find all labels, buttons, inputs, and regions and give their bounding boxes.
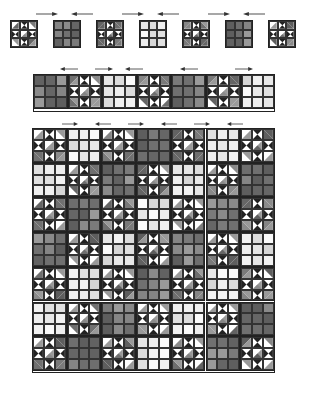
patch [55, 255, 66, 266]
patch [33, 268, 44, 279]
patch [97, 38, 106, 47]
patch [194, 313, 205, 324]
dark-nine-patch-block [33, 74, 68, 109]
patch [207, 164, 218, 175]
patch [149, 38, 158, 47]
patch [149, 21, 158, 30]
patch [148, 324, 159, 335]
patch [102, 303, 113, 314]
patch [124, 348, 135, 359]
patch [159, 233, 170, 244]
patch [229, 75, 240, 86]
star-block [268, 20, 296, 48]
patch [172, 324, 183, 335]
patch [137, 233, 148, 244]
patch [55, 313, 66, 324]
patch [207, 244, 218, 255]
patch [102, 324, 113, 335]
patch [192, 21, 201, 30]
patch [194, 140, 205, 151]
patch [149, 75, 160, 86]
patch [252, 290, 263, 301]
patch [157, 21, 166, 30]
patch [89, 175, 100, 186]
patch [183, 75, 194, 86]
arrow-left-icon [161, 121, 177, 127]
patch [286, 30, 295, 39]
dark-nine-patch-block [101, 163, 136, 198]
patch [106, 38, 115, 47]
light-nine-patch-block [171, 302, 206, 337]
patch [137, 175, 148, 186]
patch [79, 140, 90, 151]
patch [157, 38, 166, 47]
patch [137, 359, 148, 370]
patch [207, 303, 218, 314]
patch [252, 129, 263, 140]
patch [63, 21, 72, 30]
star-block [206, 163, 241, 198]
star-block [32, 197, 67, 232]
patch [228, 209, 239, 220]
patch [125, 75, 136, 86]
arrow-right-icon [95, 66, 113, 72]
patch [79, 303, 90, 314]
star-block [101, 267, 136, 302]
patch [137, 348, 148, 359]
patch [148, 255, 159, 266]
star-block [240, 197, 275, 232]
patch [252, 75, 263, 86]
patch [263, 244, 274, 255]
patch [263, 337, 274, 348]
patch [90, 75, 101, 86]
patch [148, 164, 159, 175]
dark-nine-patch-block [136, 128, 171, 163]
patch [183, 140, 194, 151]
arrow-left-icon [95, 121, 111, 127]
patch [28, 21, 37, 30]
patch [228, 175, 239, 186]
patch [114, 75, 125, 86]
patch [159, 129, 170, 140]
patch [79, 244, 90, 255]
patch [217, 359, 228, 370]
patch [137, 268, 148, 279]
patch [263, 140, 274, 151]
patch [149, 97, 160, 108]
patch [241, 324, 252, 335]
patch [124, 244, 135, 255]
patch [217, 313, 228, 324]
patch [90, 97, 101, 108]
patch [263, 290, 274, 301]
patch [113, 303, 124, 314]
patch [183, 290, 194, 301]
patch [68, 303, 79, 314]
patch [159, 244, 170, 255]
patch [252, 185, 263, 196]
patch [228, 220, 239, 231]
patch [89, 244, 100, 255]
patch [137, 324, 148, 335]
patch [192, 38, 201, 47]
arrow-left-icon [227, 121, 243, 127]
patch [241, 279, 252, 290]
patch [55, 290, 66, 301]
patch [79, 359, 90, 370]
patch [159, 198, 170, 209]
patch [124, 220, 135, 231]
patch [137, 313, 148, 324]
patch [102, 209, 113, 220]
patch [183, 220, 194, 231]
patch [207, 359, 218, 370]
patch [192, 30, 201, 39]
patch [71, 21, 80, 30]
patch [207, 313, 218, 324]
patch [183, 359, 194, 370]
patch [137, 337, 148, 348]
patch [241, 337, 252, 348]
patch [252, 313, 263, 324]
patch [102, 359, 113, 370]
patch [102, 313, 113, 324]
patch [56, 75, 67, 86]
patch [113, 129, 124, 140]
